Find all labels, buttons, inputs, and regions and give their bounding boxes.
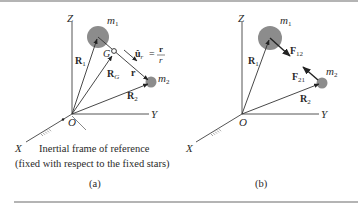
panel-a: Z Y X O m1 m2 G R1 RG R2 r ûr = r r Iner…	[14, 12, 170, 190]
m2-label-a: m2	[158, 72, 170, 86]
caption-b: (b)	[255, 178, 268, 190]
mass-m2-b	[317, 78, 328, 89]
F12-label: F12	[290, 45, 304, 58]
vector-R1-b	[242, 40, 269, 114]
panel-b: Z Y X O m1 m2 R1 R2 F12 F21 (b)	[185, 12, 338, 190]
z-label-a: Z	[67, 12, 74, 24]
origin-label-b: O	[239, 116, 247, 128]
x-label-a: X	[14, 142, 23, 154]
svg-text:ûr: ûr	[135, 48, 144, 61]
R1-label-a: R1	[75, 55, 86, 68]
vector-R1-a	[72, 39, 97, 114]
m1-label-a: m1	[107, 14, 119, 28]
unit-vector-equation: ûr = r r	[135, 44, 165, 65]
x-label-b: X	[185, 142, 194, 154]
m1-label-b: m1	[280, 14, 292, 28]
svg-text:r: r	[159, 55, 163, 65]
svg-text:=: =	[149, 48, 155, 59]
G-label: G	[103, 48, 110, 59]
R1-label-b: R1	[248, 55, 259, 68]
inertial-frame-note-line1: Inertial frame of reference	[39, 143, 150, 154]
RG-label: RG	[107, 68, 119, 81]
origin-label-a: O	[68, 116, 76, 128]
force-F21-arrow	[303, 67, 318, 80]
R2-label-a: R2	[127, 90, 138, 103]
y-label-b: Y	[321, 108, 329, 120]
mass-m2-a	[146, 77, 157, 88]
two-body-diagram: Z Y X O m1 m2 G R1 RG R2 r ûr = r r Iner…	[0, 0, 358, 205]
caption-a: (a)	[89, 178, 101, 190]
x-axis-b	[196, 114, 242, 142]
center-of-mass-G-icon	[112, 49, 117, 54]
m2-label-b: m2	[326, 65, 338, 79]
R2-label-b: R2	[300, 93, 311, 106]
svg-text:r: r	[159, 44, 163, 54]
reference-point	[62, 118, 64, 120]
inertial-frame-note-line2: (fixed with respect to the fixed stars)	[15, 158, 170, 170]
F21-label: F21	[292, 71, 306, 84]
x-axis-a	[26, 114, 72, 142]
y-label-a: Y	[151, 108, 159, 120]
z-label-b: Z	[238, 12, 245, 24]
r-label: r	[131, 67, 136, 78]
